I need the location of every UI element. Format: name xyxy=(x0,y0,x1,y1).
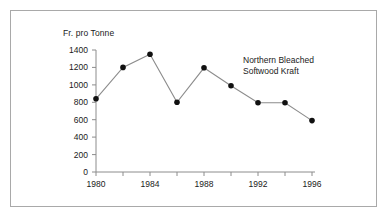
data-point xyxy=(174,100,180,106)
x-tick-label-1984: 1984 xyxy=(130,179,170,189)
series-annotation-line2: Softwood Kraft xyxy=(243,66,314,77)
x-tick-label-1992: 1992 xyxy=(238,179,278,189)
data-point xyxy=(282,100,288,106)
chart-figure: Fr. pro Tonne 1400 1200 1000 800 600 400… xyxy=(0,0,389,218)
data-point xyxy=(201,65,207,71)
y-tick-label-1400: 1400 xyxy=(58,45,88,55)
y-axis-title: Fr. pro Tonne xyxy=(63,28,114,38)
x-axis-ticks xyxy=(96,172,312,176)
x-tick-label-1988: 1988 xyxy=(184,179,224,189)
data-point xyxy=(228,83,234,89)
y-tick-label-400: 400 xyxy=(58,132,88,142)
x-tick-label-1980: 1980 xyxy=(76,179,116,189)
y-tick-label-200: 200 xyxy=(58,150,88,160)
y-tick-label-0: 0 xyxy=(58,167,88,177)
data-point xyxy=(120,65,126,71)
y-tick-label-600: 600 xyxy=(58,115,88,125)
data-point xyxy=(309,118,315,124)
y-tick-label-800: 800 xyxy=(58,97,88,107)
data-point xyxy=(147,52,153,58)
x-tick-label-1996: 1996 xyxy=(292,179,332,189)
data-point xyxy=(93,96,99,102)
series-annotation: Northern Bleached Softwood Kraft xyxy=(243,55,314,77)
series-annotation-line1: Northern Bleached xyxy=(243,55,314,66)
y-tick-label-1000: 1000 xyxy=(58,80,88,90)
y-axis-ticks xyxy=(92,50,96,172)
data-point xyxy=(255,100,261,106)
y-tick-label-1200: 1200 xyxy=(58,62,88,72)
